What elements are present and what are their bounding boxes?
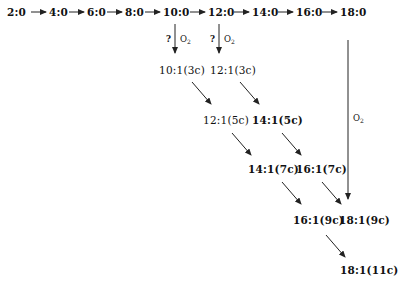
node-12-1-3c: 12:1(3c)	[210, 64, 256, 76]
arrow-14-1-5c-to-16-1-7c	[282, 133, 301, 155]
node-8-0: 8:0	[125, 6, 144, 18]
arrow-16-1-9c-to-18-1-11c	[326, 235, 345, 257]
node-16-0: 16:0	[296, 6, 323, 18]
node-18-1-9c: 18:1(9c)	[339, 214, 390, 226]
question-label-10: ?	[166, 34, 171, 44]
question-label-12: ?	[210, 34, 215, 44]
oxygen-label-12: O2	[224, 34, 235, 47]
node-18-0: 18:0	[340, 6, 367, 18]
node-12-0: 12:0	[208, 6, 235, 18]
arrow-16-1-7c-to-18-1-9c	[322, 182, 341, 204]
oxygen-label-10: O2	[180, 34, 191, 47]
node-14-1-5c: 14:1(5c)	[252, 114, 303, 126]
oxygen-label-18: O2	[353, 113, 364, 126]
node-6-0: 6:0	[87, 6, 106, 18]
node-18-1-11c: 18:1(11c)	[340, 264, 399, 276]
arrow-12-1-5c-to-14-1-7c	[232, 133, 251, 155]
node-4-0: 4:0	[49, 6, 68, 18]
node-16-1-7c: 16:1(7c)	[296, 163, 347, 175]
node-14-1-7c: 14:1(7c)	[248, 163, 299, 175]
node-14-0: 14:0	[252, 6, 279, 18]
node-12-1-5c: 12:1(5c)	[203, 114, 249, 126]
node-10-1-3c: 10:1(3c)	[159, 64, 205, 76]
arrow-10-1-3c-to-12-1-5c	[192, 82, 211, 104]
arrow-12-1-3c-to-14-1-5c	[240, 82, 259, 104]
node-2-0: 2:0	[7, 6, 26, 18]
node-10-0: 10:0	[163, 6, 190, 18]
arrow-14-1-7c-to-16-1-9c	[282, 182, 301, 204]
node-16-1-9c: 16:1(9c)	[293, 214, 344, 226]
